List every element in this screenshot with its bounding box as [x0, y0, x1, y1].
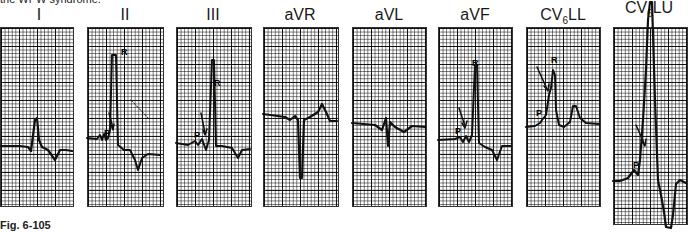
trace-lead-i	[0, 118, 72, 160]
trace-lead-avf	[438, 65, 511, 160]
figure-caption: Fig. 6-105	[0, 219, 51, 231]
arrow-cv6ll	[537, 67, 547, 89]
trace-lead-avl	[352, 118, 425, 146]
r-label-avf: R	[472, 58, 479, 68]
ecg-traces	[0, 0, 688, 232]
p-label-iii: P	[194, 130, 200, 140]
p-label-cv6lu: P	[633, 160, 639, 170]
dotted-line-ii	[131, 100, 150, 120]
trace-lead-avr	[263, 104, 337, 178]
p-label-cv6ll: P	[536, 108, 542, 118]
r-label-cv6ll: R	[551, 55, 558, 65]
p-label-avf: P	[455, 126, 461, 136]
trace-lead-iii	[176, 60, 250, 158]
r-label-iii: R	[214, 78, 221, 88]
trace-lead-cv6ll	[526, 70, 599, 127]
p-label-ii: P	[104, 128, 110, 138]
trace-lead-ii	[87, 55, 160, 170]
r-label-ii: R	[121, 47, 128, 57]
trace-lead-cv6lu	[613, 2, 686, 228]
